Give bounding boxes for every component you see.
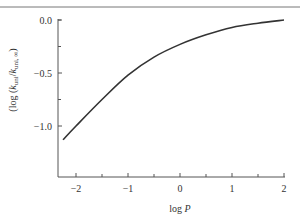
axes	[58, 19, 285, 177]
y-tick-label: −1.0	[34, 121, 52, 132]
y-tick-label: −0.5	[34, 68, 52, 79]
data-curve	[63, 20, 284, 140]
y-tick-label: 0.0	[40, 15, 53, 26]
x-axis-label: log P	[169, 203, 190, 214]
x-tick-label: 0	[178, 183, 183, 194]
x-tick-label: 1	[230, 183, 235, 194]
x-tick-label: 2	[282, 183, 287, 194]
chart: −2−10120.0−0.5−1.0 log P (log (kuni/kuni…	[0, 0, 300, 219]
x-tick-label: −1	[123, 183, 134, 194]
ticks: −2−10120.0−0.5−1.0	[34, 15, 287, 194]
y-axis-label: (log (kuni/kuni, ∞)	[7, 48, 20, 111]
x-tick-label: −2	[71, 183, 82, 194]
